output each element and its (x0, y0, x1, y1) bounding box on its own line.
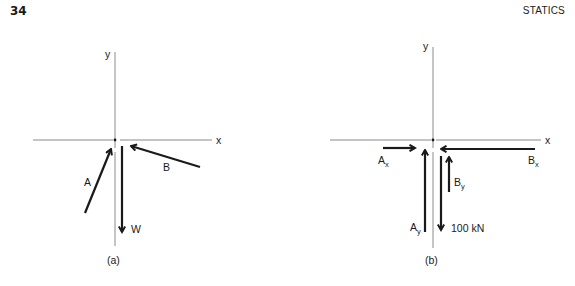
force-label-ay: Ay (410, 221, 421, 236)
x-axis-label-b: x (545, 134, 551, 146)
force-label-w: W (131, 223, 141, 235)
force-label-b: B (163, 161, 170, 173)
free-body-diagrams: y x A B W (a) y x Ax Bx Ay By (0, 0, 575, 286)
caption-b: (b) (425, 254, 438, 266)
y-axis-label-a: y (105, 48, 111, 60)
origin-point-b (432, 139, 435, 142)
force-label-ax: Ax (378, 154, 389, 169)
force-label-load: 100 kN (451, 222, 484, 234)
y-axis-label-b: y (423, 40, 429, 52)
figure-b: y x Ax Bx Ay By 100 kN (b) (330, 40, 551, 266)
force-label-bx: Bx (528, 154, 539, 169)
x-axis-label-a: x (216, 134, 222, 146)
caption-a: (a) (107, 254, 120, 266)
origin-point-a (114, 139, 117, 142)
figure-a: y x A B W (a) (33, 48, 222, 266)
force-label-by: By (454, 176, 465, 191)
force-label-a: A (84, 176, 91, 188)
